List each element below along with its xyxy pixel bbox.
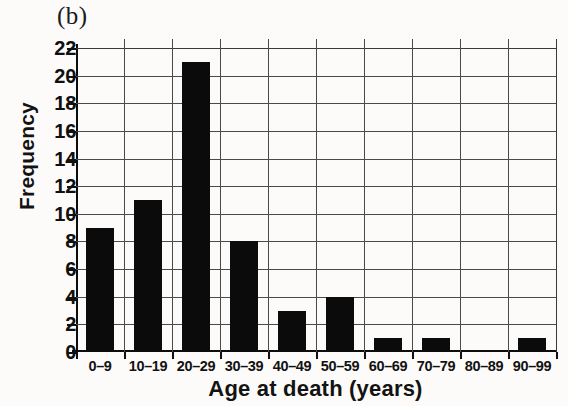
y-tick-label: 6 bbox=[30, 258, 76, 281]
y-tick-label: 14 bbox=[30, 147, 76, 170]
x-tick-label: 90–99 bbox=[502, 358, 562, 374]
gridline-vertical bbox=[556, 39, 557, 352]
y-tick-label: 4 bbox=[30, 285, 76, 308]
axis-ticks bbox=[76, 48, 556, 352]
y-tick-label: 18 bbox=[30, 92, 76, 115]
y-tick-label: 20 bbox=[30, 64, 76, 87]
y-tick-label: 10 bbox=[30, 202, 76, 225]
y-tick-label: 8 bbox=[30, 230, 76, 253]
figure-canvas: (b) Frequency 0246810121416182022 0–910–… bbox=[0, 0, 568, 406]
y-tick-label: 12 bbox=[30, 175, 76, 198]
y-axis-labels: 0246810121416182022 bbox=[20, 48, 76, 352]
plot-area bbox=[76, 48, 556, 352]
y-tick-label: 22 bbox=[30, 37, 76, 60]
y-tick-label: 2 bbox=[30, 313, 76, 336]
x-axis-title: Age at death (years) bbox=[75, 376, 556, 402]
y-tick-label: 16 bbox=[30, 119, 76, 142]
panel-label: (b) bbox=[57, 2, 88, 30]
